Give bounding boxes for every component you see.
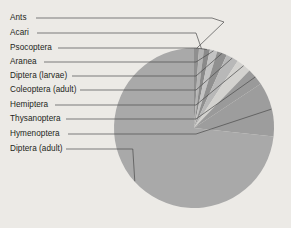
pie-chart-canvas: AntsAcariPsocopteraAraneaDiptera (larvae… [0,0,291,228]
slice-label: Hemiptera [10,100,49,109]
slice-label: Diptera (larvae) [10,71,67,80]
slice-label: Ants [10,13,27,22]
pie-slices [114,48,274,208]
slice-label: Thysanoptera [10,114,61,123]
slice-label: Diptera (adult) [10,144,63,153]
slice-label: Hymenoptera [10,129,60,138]
slice-label: Psocoptera [10,43,52,52]
slice-label: Acari [10,28,29,37]
pie-chart-figure: AntsAcariPsocopteraAraneaDiptera (larvae… [0,0,291,228]
slice-label: Coleoptera (adult) [10,85,77,94]
slice-label: Aranea [10,57,37,66]
